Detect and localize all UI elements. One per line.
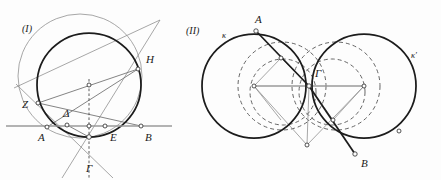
panel2-node-B bbox=[353, 152, 357, 156]
geometry-figure-container: (I) Z Δ A E B H Γ bbox=[0, 0, 441, 180]
panel1-center-node bbox=[87, 83, 91, 87]
panel1-node-E bbox=[103, 124, 107, 128]
panel-2-group: (II) A Γ B κ κ′ bbox=[186, 13, 417, 169]
panel1-label-A: A bbox=[37, 131, 45, 143]
panel-1-group: (I) Z Δ A E B H Γ bbox=[6, 14, 172, 178]
panel2-node-mid-upper bbox=[279, 56, 283, 60]
panel-1-label: (I) bbox=[22, 23, 33, 35]
panel2-label-B: B bbox=[361, 157, 368, 169]
panel1-node-Gamma bbox=[87, 135, 92, 140]
panel2-helper-centerL-lower bbox=[254, 86, 281, 120]
panel-2-label: (II) bbox=[186, 25, 200, 37]
geometry-figure-svg: (I) Z Δ A E B H Γ bbox=[0, 0, 441, 180]
panel1-label-Z: Z bbox=[22, 98, 29, 110]
panel1-node-A bbox=[45, 125, 49, 129]
panel1-label-H: H bbox=[145, 53, 155, 65]
panel1-node-Delta bbox=[65, 123, 69, 127]
panel2-label-Gamma: Γ bbox=[314, 67, 322, 79]
panel1-chord-A-H bbox=[47, 69, 138, 127]
panel2-label-A: A bbox=[254, 13, 262, 25]
panel2-node-center-left bbox=[252, 84, 256, 88]
panel1-node-H bbox=[136, 67, 140, 71]
panel2-helper-centerL-midUpper bbox=[254, 58, 281, 86]
panel2-node-arc-right bbox=[397, 129, 401, 133]
panel1-node-B bbox=[139, 124, 143, 128]
panel1-label-E: E bbox=[109, 131, 117, 143]
panel1-label-Gamma: Γ bbox=[85, 162, 93, 174]
panel1-oblique-line-right bbox=[62, 20, 160, 178]
panel2-label-kappa-prime: κ′ bbox=[411, 50, 417, 60]
panel2-node-A bbox=[254, 29, 258, 33]
panel1-node-Z bbox=[36, 101, 40, 105]
panel2-node-bottom bbox=[305, 143, 309, 147]
panel2-node-mid-lower bbox=[331, 118, 335, 122]
panel1-offset-circle bbox=[18, 14, 142, 138]
panel2-node-center-right bbox=[362, 84, 366, 88]
panel1-label-Delta: Δ bbox=[62, 107, 69, 119]
panel2-node-Gamma bbox=[307, 84, 311, 88]
panel1-label-B: B bbox=[145, 131, 152, 143]
panel2-label-kappa: κ bbox=[222, 30, 227, 40]
panel1-node-center-line bbox=[87, 124, 91, 128]
